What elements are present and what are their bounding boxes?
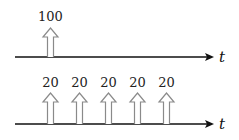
impulse-value-label: 20 xyxy=(71,75,88,90)
up-arrow-icon xyxy=(43,28,58,57)
impulse-value-label: 20 xyxy=(100,75,117,90)
impulse-arrow: 20 xyxy=(71,75,88,124)
impulse-value-label: 100 xyxy=(38,9,63,24)
up-arrow-icon xyxy=(130,93,145,124)
impulse-arrow: 20 xyxy=(42,75,59,124)
row-single-impulse: t 100 xyxy=(15,9,226,66)
impulse-value-label: 20 xyxy=(158,75,175,90)
impulse-diagram: t 100 t 20 20 20 20 20 xyxy=(0,0,239,140)
up-arrow-icon xyxy=(43,93,58,124)
axis-label-t: t xyxy=(219,48,226,66)
up-arrow-icon xyxy=(72,93,87,124)
row-impulse-train: t 20 20 20 20 20 xyxy=(15,75,226,133)
impulse-value-label: 20 xyxy=(42,75,59,90)
impulse-value-label: 20 xyxy=(129,75,146,90)
impulse-arrow: 20 xyxy=(158,75,175,124)
impulse-arrow: 100 xyxy=(38,9,63,57)
impulse-arrow: 20 xyxy=(100,75,117,124)
up-arrow-icon xyxy=(101,93,116,124)
axis-label-t: t xyxy=(219,115,226,133)
impulse-arrow: 20 xyxy=(129,75,146,124)
up-arrow-icon xyxy=(159,93,174,124)
